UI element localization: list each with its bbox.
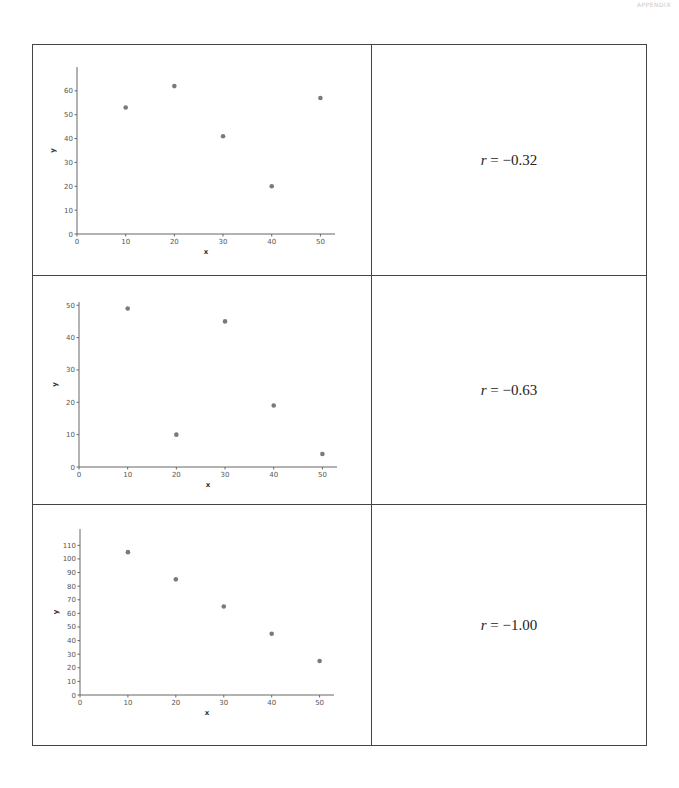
y-tick-label: 40 [67, 637, 76, 645]
chart-cell-3: 010203040500102030405060708090100110xy [33, 505, 372, 745]
x-tick-label: 0 [75, 238, 79, 246]
page-header-label: APPENDIX [637, 1, 671, 8]
y-tick-label: 30 [66, 366, 75, 374]
data-point-marker [317, 659, 322, 664]
x-tick-label: 10 [121, 238, 130, 246]
y-tick-label: 50 [67, 623, 76, 631]
y-tick-label: 30 [67, 651, 76, 659]
y-tick-label: 50 [64, 111, 73, 119]
y-tick-label: 0 [69, 231, 73, 239]
x-tick-label: 0 [77, 471, 81, 479]
chart-cell-2: 0102030405001020304050xy [33, 276, 372, 505]
r-cell-3: r = −1.00 [372, 505, 646, 745]
r-cell-1: r = −0.32 [372, 45, 646, 276]
data-point-marker [318, 96, 323, 101]
x-tick-label: 10 [123, 471, 132, 479]
y-tick-label: 70 [67, 596, 76, 604]
r-cell-2: r = −0.63 [372, 276, 646, 505]
data-point-marker [221, 134, 226, 139]
scatter-plot-2: 0102030405001020304050xy [33, 276, 372, 505]
data-point-marker [269, 631, 274, 636]
y-tick-label: 60 [67, 610, 76, 618]
y-tick-label: 50 [66, 302, 75, 310]
r-value-3: r = −1.00 [372, 617, 646, 634]
data-point-marker [221, 604, 226, 609]
data-point-marker [172, 84, 177, 89]
y-tick-label: 40 [64, 135, 73, 143]
axes: 0102030405001020304050 [66, 302, 337, 479]
x-tick-label: 10 [123, 699, 132, 707]
y-tick-label: 20 [67, 664, 76, 672]
r-value-2: r = −0.63 [372, 382, 646, 399]
data-point-marker [123, 105, 128, 110]
axes: 010203040500102030405060 [64, 67, 335, 246]
data-point-marker [174, 577, 179, 582]
x-tick-label: 50 [318, 471, 327, 479]
y-tick-label: 40 [66, 334, 75, 342]
axes: 010203040500102030405060708090100110 [63, 529, 334, 707]
y-tick-label: 30 [64, 159, 73, 167]
data-point-marker [320, 452, 325, 457]
y-tick-label: 10 [64, 207, 73, 215]
y-tick-label: 0 [72, 692, 76, 700]
y-tick-label: 100 [63, 555, 76, 563]
y-tick-label: 20 [66, 399, 75, 407]
y-tick-label: 90 [67, 569, 76, 577]
r-value-1: r = −0.32 [372, 152, 646, 169]
data-points [125, 306, 324, 456]
correlation-table: 010203040500102030405060xy r = −0.32 010… [32, 44, 647, 746]
data-points [126, 550, 322, 663]
y-tick-label: 110 [63, 542, 76, 550]
data-points [123, 84, 322, 189]
x-axis-label: x [206, 481, 211, 489]
data-point-marker [269, 184, 274, 189]
y-tick-label: 10 [67, 678, 76, 686]
y-tick-label: 0 [71, 464, 75, 472]
data-point-marker [125, 306, 130, 311]
y-tick-label: 10 [66, 431, 75, 439]
x-tick-label: 40 [267, 238, 276, 246]
x-tick-label: 30 [221, 471, 230, 479]
x-axis-label: x [204, 248, 209, 256]
x-tick-label: 40 [267, 699, 276, 707]
x-tick-label: 50 [315, 699, 324, 707]
y-tick-label: 20 [64, 183, 73, 191]
data-point-marker [223, 319, 228, 324]
scatter-plot-1: 010203040500102030405060xy [33, 45, 372, 276]
x-tick-label: 30 [219, 699, 228, 707]
x-tick-label: 20 [171, 699, 180, 707]
x-tick-label: 0 [78, 699, 82, 707]
y-tick-label: 80 [67, 583, 76, 591]
x-axis-label: x [205, 709, 210, 717]
scatter-plot-3: 010203040500102030405060708090100110xy [33, 505, 372, 747]
chart-cell-1: 010203040500102030405060xy [33, 45, 372, 276]
x-tick-label: 40 [269, 471, 278, 479]
y-tick-label: 60 [64, 87, 73, 95]
y-axis-label: y [49, 148, 57, 153]
data-point-marker [126, 550, 131, 555]
x-tick-label: 30 [219, 238, 228, 246]
y-axis-label: y [51, 382, 59, 387]
x-tick-label: 20 [170, 238, 179, 246]
y-axis-label: y [52, 609, 60, 614]
data-point-marker [174, 432, 179, 437]
x-tick-label: 50 [316, 238, 325, 246]
x-tick-label: 20 [172, 471, 181, 479]
data-point-marker [271, 403, 276, 408]
